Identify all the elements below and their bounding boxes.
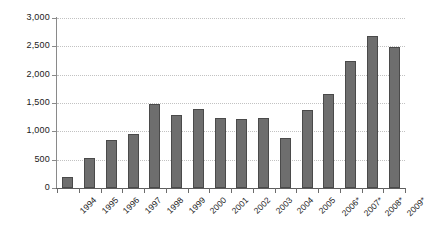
- y-axis-tick: [52, 46, 56, 47]
- bar: [258, 118, 269, 188]
- y-axis-tick: [52, 188, 56, 189]
- y-axis-tick: [52, 75, 56, 76]
- x-axis-tick: [296, 188, 297, 193]
- y-axis-tick-label: 0: [4, 183, 50, 192]
- bar: [128, 134, 139, 188]
- bar: [280, 138, 291, 188]
- y-axis-tick: [52, 18, 56, 19]
- y-axis-tick-label: 2,500: [4, 41, 50, 50]
- bar: [302, 110, 313, 188]
- x-axis-tick-label: 2002: [252, 195, 273, 216]
- y-axis-labels: 05001,0001,5002,0002,5003,000: [0, 0, 50, 225]
- x-axis-tick: [340, 188, 341, 193]
- bar: [323, 94, 334, 188]
- x-axis-tick-label: 2008*: [383, 195, 406, 218]
- plot-area: [57, 18, 405, 188]
- x-axis-tick-label: 2007*: [361, 195, 384, 218]
- x-axis-tick: [362, 188, 363, 193]
- x-axis-tick: [166, 188, 167, 193]
- y-axis-tick-label: 3,000: [4, 13, 50, 22]
- x-axis-tick-label: 1998: [165, 195, 186, 216]
- x-axis-tick: [122, 188, 123, 193]
- bar-chart: 05001,0001,5002,0002,5003,000 1994199519…: [0, 0, 428, 225]
- x-axis-tick-label: 2009*: [405, 195, 428, 218]
- x-axis-tick: [209, 188, 210, 193]
- y-axis-tick-label: 2,000: [4, 70, 50, 79]
- y-axis-tick: [52, 160, 56, 161]
- x-axis-tick: [318, 188, 319, 193]
- x-axis-tick-label: 2003: [273, 195, 294, 216]
- x-axis-tick: [275, 188, 276, 193]
- y-axis-tick: [52, 103, 56, 104]
- y-axis-line: [56, 17, 57, 189]
- x-axis-tick-label: 1994: [78, 195, 99, 216]
- bar: [84, 158, 95, 188]
- x-axis-tick: [144, 188, 145, 193]
- x-axis-tick-label: 1995: [99, 195, 120, 216]
- bar: [389, 47, 400, 188]
- bar: [106, 140, 117, 188]
- bar: [367, 36, 378, 188]
- x-axis-tick-label: 2005: [317, 195, 338, 216]
- bar: [236, 119, 247, 188]
- y-axis-tick-label: 1,500: [4, 98, 50, 107]
- bar: [215, 118, 226, 188]
- x-axis-tick: [101, 188, 102, 193]
- x-axis-tick-label: 1999: [186, 195, 207, 216]
- y-axis-tick-label: 500: [4, 155, 50, 164]
- x-axis-tick: [57, 188, 58, 193]
- bar: [193, 109, 204, 188]
- x-axis-tick: [405, 188, 406, 193]
- x-axis-tick: [79, 188, 80, 193]
- gridline: [57, 46, 405, 47]
- x-axis-tick-label: 2006*: [340, 195, 363, 218]
- x-axis-tick: [231, 188, 232, 193]
- x-axis-tick-label: 2004: [295, 195, 316, 216]
- bar: [149, 104, 160, 188]
- x-axis-tick-label: 1996: [121, 195, 142, 216]
- gridline: [57, 18, 405, 19]
- y-axis-tick-label: 1,000: [4, 126, 50, 135]
- x-axis-tick: [383, 188, 384, 193]
- x-axis-tick-label: 1997: [143, 195, 164, 216]
- bar: [171, 115, 182, 188]
- x-axis-tick-label: 2001: [230, 195, 251, 216]
- bar: [62, 177, 73, 188]
- x-axis-tick-label: 2000: [208, 195, 229, 216]
- x-axis-tick: [188, 188, 189, 193]
- y-axis-tick: [52, 131, 56, 132]
- bar: [345, 61, 356, 189]
- x-axis-tick: [253, 188, 254, 193]
